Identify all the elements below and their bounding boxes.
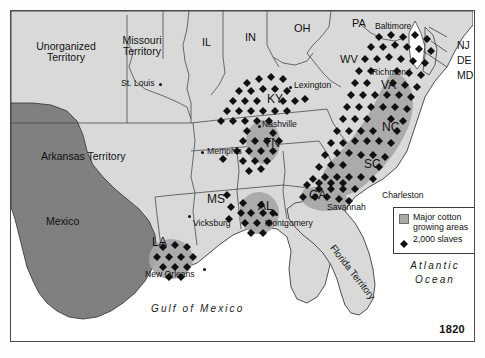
label-state-tn: TN bbox=[264, 137, 280, 150]
label-arkansas-territory: Arkansas Territory bbox=[41, 151, 125, 162]
city-dot-lexington bbox=[289, 86, 292, 89]
legend-slaves-label: 2,000 slaves bbox=[413, 234, 462, 244]
map-year-stamp: 1820 bbox=[439, 323, 465, 335]
label-state-nc: NC bbox=[382, 121, 399, 134]
slave-diamond-icon bbox=[400, 236, 408, 244]
label-atlantic-ocean-line2: Ocean bbox=[397, 275, 473, 286]
label-state-al: AL bbox=[258, 200, 273, 213]
label-state-wv: WV bbox=[340, 54, 358, 66]
label-city-richmond: Richmond bbox=[372, 68, 411, 77]
label-state-pa: PA bbox=[352, 18, 366, 30]
label-city-charleston: Charleston bbox=[382, 191, 424, 200]
label-city-memphis: Memphis bbox=[207, 147, 242, 156]
label-state-sc: SC bbox=[364, 158, 381, 171]
label-state-ms: MS bbox=[207, 193, 225, 206]
label-mexico: Mexico bbox=[46, 216, 79, 227]
city-dot-new-orleans bbox=[203, 268, 206, 271]
label-missouri-territory-line2: Territory bbox=[109, 46, 175, 57]
legend-cotton-label: Major cotton growing areas bbox=[413, 212, 468, 232]
city-dot-vicksburg bbox=[188, 215, 191, 218]
label-state-md: MD bbox=[457, 70, 473, 81]
label-city-montgomery: Montgomery bbox=[265, 219, 313, 228]
label-city-new-orleans: New Orleans bbox=[145, 270, 195, 279]
label-state-oh: OH bbox=[294, 23, 311, 35]
label-gulf-of-mexico: Gulf of Mexico bbox=[151, 304, 244, 315]
label-state-in: IN bbox=[245, 32, 256, 44]
map-legend: Major cotton growing areas 2,000 slaves bbox=[393, 207, 475, 254]
label-state-ga: GA bbox=[309, 189, 326, 202]
city-dot-memphis bbox=[201, 151, 204, 154]
map-page: Unorganized Territory Missouri Territory… bbox=[0, 0, 485, 358]
label-city-lexington: Lexington bbox=[294, 81, 331, 90]
legend-cotton-line2: growing areas bbox=[413, 222, 468, 232]
label-state-de: DE bbox=[457, 55, 472, 66]
label-city-vicksburg: Vicksburg bbox=[193, 219, 231, 228]
legend-cotton-line1: Major cotton bbox=[413, 212, 461, 222]
label-unorganized-territory-line2: Territory bbox=[23, 52, 109, 63]
map-frame: Unorganized Territory Missouri Territory… bbox=[10, 10, 475, 342]
label-city-st-louis: St. Louis bbox=[121, 79, 154, 88]
city-dot-nashville bbox=[258, 125, 261, 128]
cotton-area-swatch-icon bbox=[399, 214, 409, 224]
label-state-ky: KY bbox=[267, 93, 283, 106]
legend-row-slaves: 2,000 slaves bbox=[399, 234, 475, 244]
label-atlantic-ocean-line1: Atlantic bbox=[397, 261, 473, 272]
label-state-va: VA bbox=[381, 79, 396, 92]
label-state-nj: NJ bbox=[457, 40, 470, 51]
label-missouri-territory: Missouri Territory bbox=[109, 35, 175, 57]
label-city-savannah: Savannah bbox=[327, 203, 366, 212]
legend-row-cotton: Major cotton growing areas bbox=[399, 212, 475, 232]
label-unorganized-territory: Unorganized Territory bbox=[23, 41, 109, 63]
city-dot-st-louis bbox=[159, 83, 162, 86]
label-state-la: LA bbox=[152, 236, 167, 249]
label-city-baltimore: Baltimore bbox=[375, 22, 411, 31]
label-city-nashville: Nashville bbox=[262, 120, 297, 129]
city-dot-montgomery bbox=[275, 213, 278, 216]
label-state-il: IL bbox=[202, 37, 211, 49]
